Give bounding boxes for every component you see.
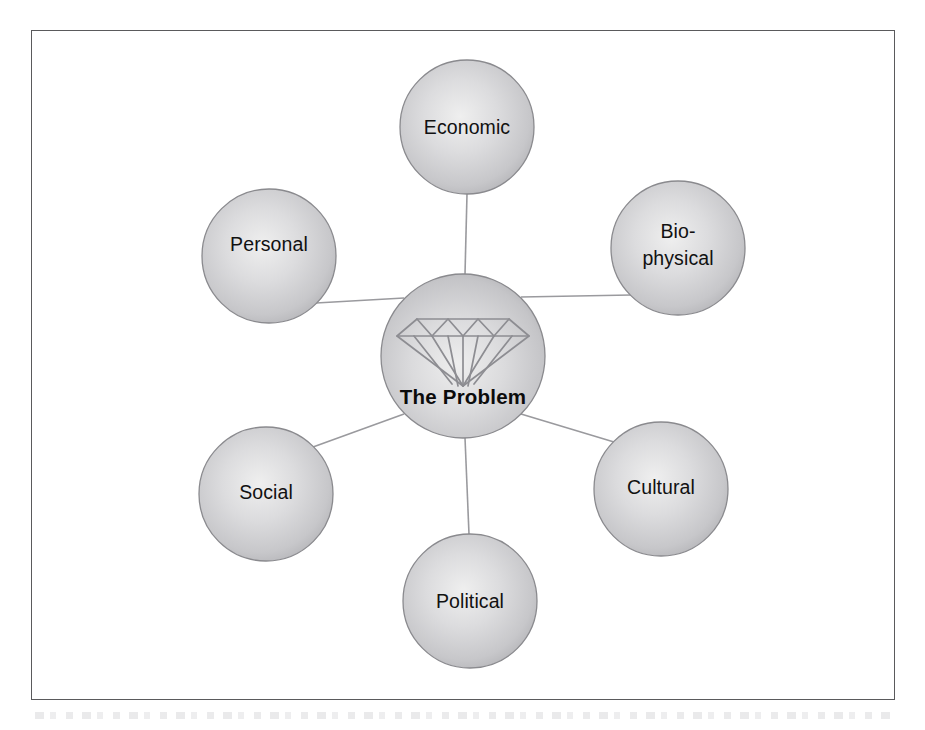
node-economic-label: Economic: [424, 116, 511, 138]
node-political[interactable]: Political: [403, 534, 537, 668]
node-social-label: Social: [239, 481, 293, 503]
node-personal-circle[interactable]: [202, 189, 336, 323]
node-cultural-label: Cultural: [627, 476, 695, 498]
connector-hub-personal: [316, 298, 404, 303]
node-biophysical-label-line2: physical: [642, 247, 713, 269]
hub-label: The Problem: [400, 385, 526, 408]
connector-hub-biophysical: [521, 295, 631, 297]
connector-hub-social: [313, 414, 404, 447]
node-economic[interactable]: Economic: [400, 60, 534, 194]
connector-hub-political: [465, 438, 469, 534]
node-social[interactable]: Social: [199, 427, 333, 561]
node-biophysical[interactable]: Bio- physical: [611, 181, 745, 315]
node-cultural[interactable]: Cultural: [594, 422, 728, 556]
connector-hub-cultural: [521, 414, 614, 442]
connector-hub-economic: [465, 194, 467, 274]
diagram-canvas: Economic Bio- physical Cultural Politica…: [0, 0, 925, 730]
page-root: Economic Bio- physical Cultural Politica…: [0, 0, 925, 730]
node-political-label: Political: [436, 590, 504, 612]
node-hub-the-problem[interactable]: The Problem: [381, 274, 545, 438]
node-personal[interactable]: Personal: [202, 189, 336, 323]
node-personal-label: Personal: [230, 233, 308, 255]
node-biophysical-label-line1: Bio-: [660, 220, 695, 242]
scan-artifact-strip: [35, 712, 890, 719]
